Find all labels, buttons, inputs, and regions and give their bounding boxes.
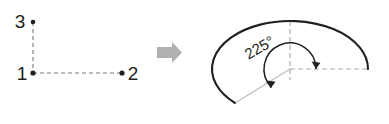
point-1-label: 1 (17, 63, 28, 84)
point-2-label: 2 (128, 63, 139, 84)
figure-canvas: 3 1 2 225° (0, 0, 389, 124)
measure-arrow-head-end (267, 81, 276, 89)
point-3-dot (31, 20, 36, 25)
angle-value-label: 225° (242, 32, 277, 62)
point-1-dot (30, 70, 35, 75)
figure-root: 3 1 2 225° (0, 0, 389, 124)
point-2-dot (119, 70, 124, 75)
measure-arrow-head-start (312, 62, 321, 70)
terminal-radius-line (235, 69, 290, 103)
arrow-right-icon (157, 42, 182, 63)
right-diagram: 225° (212, 21, 368, 103)
left-diagram: 3 1 2 (15, 11, 139, 84)
point-3-label: 3 (15, 11, 26, 32)
transform-arrow-group (157, 42, 182, 63)
